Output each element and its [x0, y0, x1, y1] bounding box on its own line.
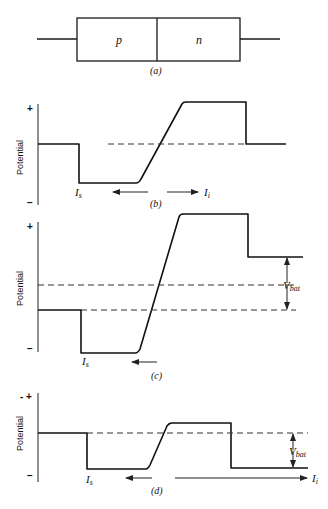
current-Is-label: Is: [85, 473, 93, 487]
junction-box: [77, 18, 240, 61]
potential-curve: [38, 214, 303, 353]
plus-sign: +: [27, 221, 33, 232]
caption-c: (c): [151, 370, 163, 382]
plus-sign: +: [27, 103, 33, 114]
current-Is-label: Is: [74, 186, 82, 200]
panel-a: p n (a): [37, 18, 280, 77]
minus-sign: −: [27, 197, 33, 208]
current-Ii-label: Ii: [203, 186, 210, 200]
panel-d: - + − Potential Vbat Is Ii (d): [15, 391, 318, 497]
panel-c: + − Potential Vbat Is (c): [15, 214, 303, 382]
panel-b: + − Potential Is Ii (b): [15, 102, 286, 210]
y-axis-label: Potential: [15, 271, 25, 306]
caption-a: (a): [150, 65, 162, 77]
vbat-label: Vbat: [283, 279, 301, 293]
caption-b: (b): [150, 198, 162, 210]
potential-curve: [38, 423, 308, 469]
minus-sign: −: [27, 470, 33, 481]
current-Is-label: Is: [81, 355, 89, 369]
caption-d: (d): [151, 485, 163, 497]
n-region-label: n: [196, 33, 202, 47]
y-axis-label: Potential: [15, 140, 25, 175]
p-region-label: p: [115, 33, 122, 47]
y-axis-label: Potential: [15, 416, 25, 451]
pn-junction-diagram: p n (a) + − Potential Is Ii (b) + − Pote…: [0, 0, 328, 509]
plus-sign: - +: [20, 391, 32, 402]
current-Ii-label: Ii: [311, 472, 318, 486]
minus-sign: −: [27, 343, 33, 354]
vbat-label: Vbat: [289, 445, 307, 459]
potential-curve: [38, 102, 286, 183]
